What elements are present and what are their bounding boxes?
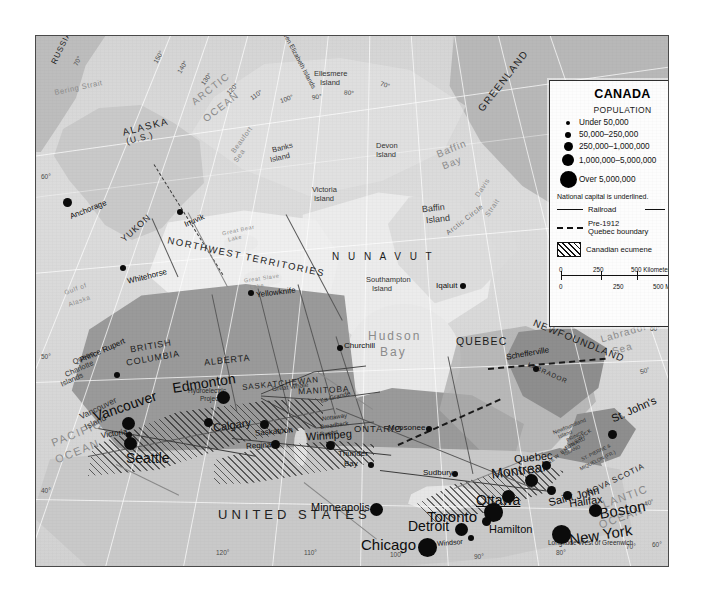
paper-grain-overlay [36,36,668,566]
page-root: 150° 140° 130° 120° 110° 100° 90° 80° 70… [0,0,704,600]
map-frame: 150° 140° 130° 120° 110° 100° 90° 80° 70… [35,35,669,567]
